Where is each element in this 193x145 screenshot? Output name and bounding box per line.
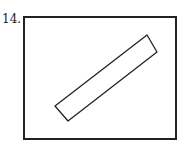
figure-canvas (0, 0, 193, 145)
outer-box (24, 17, 176, 139)
rotated-rectangle (55, 35, 157, 121)
